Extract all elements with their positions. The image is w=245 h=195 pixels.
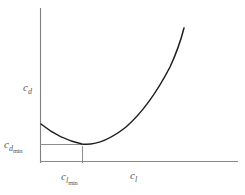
drag-polar-curve: [41, 28, 184, 144]
cd-min-subscript2: min: [13, 147, 23, 154]
y-axis-title-subscript: d: [28, 87, 32, 96]
y-axis-title: cd: [23, 78, 32, 96]
cl-min-subscript2: min: [68, 179, 78, 186]
cd-min-label: cdmin: [4, 135, 22, 155]
drag-polar-figure: cd cl cdmin clmin: [0, 0, 245, 195]
x-axis-title: cl: [130, 166, 137, 184]
cl-min-label: clmin: [61, 167, 78, 187]
x-axis-title-subscript: l: [135, 175, 137, 184]
plot-canvas: [0, 0, 245, 195]
